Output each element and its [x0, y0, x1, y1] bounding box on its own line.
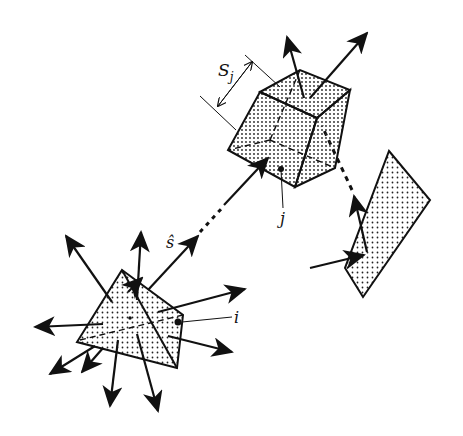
radiation-diagram: Sj ŝ i j [0, 0, 463, 436]
receiver-element-label: j [277, 209, 285, 228]
direct-ray-s-hat [148, 158, 268, 290]
size-label: Sj [218, 60, 234, 84]
cube-element-j [228, 70, 350, 208]
direction-label: ŝ [166, 233, 174, 252]
element-i-center [175, 319, 182, 326]
source-element-label: i [234, 308, 239, 327]
reflecting-wall [345, 151, 430, 297]
